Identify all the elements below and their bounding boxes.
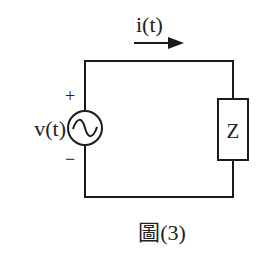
current-label: i(t)	[136, 12, 163, 37]
minus-sign: −	[65, 149, 75, 169]
circuit-diagram: Z i(t) + v(t) − 圖(3)	[0, 0, 273, 258]
impedance-label: Z	[227, 119, 240, 143]
ac-source-icon	[68, 111, 102, 145]
top-wire	[85, 61, 233, 111]
plus-sign: +	[65, 86, 75, 106]
current-arrow-icon	[134, 37, 184, 49]
figure-caption: 圖(3)	[138, 220, 186, 245]
source-label: v(t)	[34, 116, 66, 141]
bottom-wire	[85, 145, 233, 197]
